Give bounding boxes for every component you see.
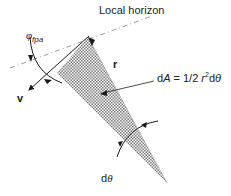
dtheta-label: dθ bbox=[101, 172, 113, 184]
area-equation-label: dA = 1/2 r2dθ bbox=[157, 71, 221, 84]
dtheta-theta: θ bbox=[107, 172, 112, 184]
phi-fpa-label: φfpa bbox=[26, 29, 43, 44]
area-wedge bbox=[57, 37, 167, 183]
velocity-label: v bbox=[17, 92, 23, 104]
area-theta: θ bbox=[215, 72, 221, 84]
phi-subscript: fpa bbox=[32, 35, 43, 44]
dtheta-arrow-right bbox=[141, 122, 147, 128]
radius-label: r bbox=[113, 58, 117, 70]
phi-arrow-bottom bbox=[44, 79, 52, 84]
local-horizon-label: Local horizon bbox=[99, 4, 164, 16]
area-eq: = 1/2 bbox=[170, 72, 201, 84]
